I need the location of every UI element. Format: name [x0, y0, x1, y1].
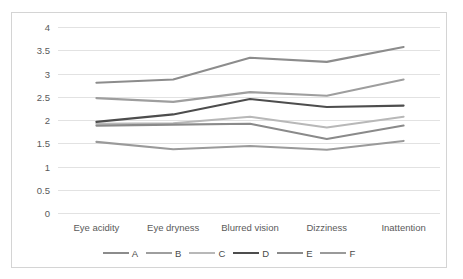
chart-legend: ABCDEF	[12, 249, 446, 259]
legend-swatch-d	[233, 252, 259, 254]
legend-label-e: E	[306, 249, 312, 259]
x-axis-tick-label: Eye dryness	[147, 222, 199, 233]
plot-area: 00.511.522.533.54 Eye acidityEye dryness…	[12, 13, 446, 267]
legend-label-c: C	[218, 249, 225, 259]
legend-swatch-c	[189, 252, 215, 254]
x-axis-tick-label: Inattention	[381, 222, 425, 233]
legend-swatch-e	[277, 252, 303, 254]
legend-swatch-f	[320, 252, 346, 254]
legend-item-e[interactable]: E	[277, 249, 312, 259]
x-axis-tick-label: Dizziness	[306, 222, 347, 233]
legend-item-d[interactable]: D	[233, 249, 269, 259]
series-line-f	[96, 141, 403, 150]
x-axis-tick-label: Eye acidity	[73, 222, 119, 233]
chart-container: 00.511.522.533.54 Eye acidityEye dryness…	[11, 12, 447, 268]
series-line-e	[96, 124, 403, 139]
series-line-a	[96, 47, 403, 83]
legend-item-f[interactable]: F	[320, 249, 355, 259]
legend-item-a[interactable]: A	[103, 249, 138, 259]
legend-label-f: F	[349, 249, 355, 259]
legend-swatch-b	[146, 252, 172, 254]
legend-item-c[interactable]: C	[189, 249, 225, 259]
legend-swatch-a	[103, 252, 129, 254]
x-axis-tick-label: Blurred vision	[221, 222, 279, 233]
legend-item-b[interactable]: B	[146, 249, 181, 259]
series-line-d	[96, 99, 403, 122]
legend-label-b: B	[175, 249, 181, 259]
legend-label-a: A	[132, 249, 138, 259]
legend-label-d: D	[262, 249, 269, 259]
